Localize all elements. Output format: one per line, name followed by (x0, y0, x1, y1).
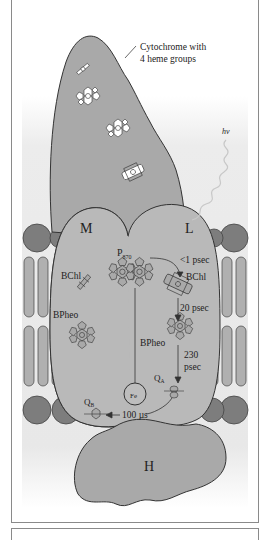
time-2-label: 20 psec (180, 303, 209, 313)
fe-label: Fe (130, 392, 137, 400)
l-label: L (185, 221, 194, 236)
light-label: hν (222, 127, 230, 136)
h-label: H (144, 459, 154, 474)
bchl-m-label: BChl (61, 271, 81, 281)
time-3-label-1: 230 (184, 350, 199, 360)
bchl-l-label: BChl (186, 272, 206, 282)
cytochrome-label-1: Cytochrome with (140, 42, 206, 52)
m-label: M (80, 221, 93, 236)
cytochrome-label-2: 4 heme groups (140, 54, 196, 64)
bpheo-m-label: BPheo (53, 310, 79, 320)
cytochrome-pointer (125, 46, 136, 58)
bpheo-l-label: BPheo (140, 338, 166, 348)
time-4-label: 100 µs (122, 410, 148, 420)
time-3-label-2: psec (184, 362, 201, 372)
time-1-label: <1 psec (180, 255, 209, 265)
